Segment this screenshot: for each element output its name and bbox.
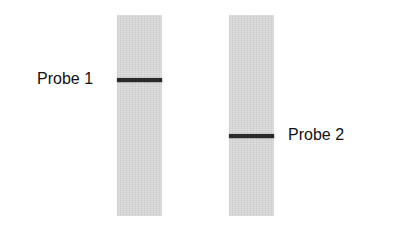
band-probe-1 [117,78,162,82]
band-probe-2 [229,134,274,138]
label-probe-1: Probe 1 [37,70,93,88]
lane-1 [117,15,162,216]
label-probe-2: Probe 2 [288,126,344,144]
lane-2 [229,15,274,216]
